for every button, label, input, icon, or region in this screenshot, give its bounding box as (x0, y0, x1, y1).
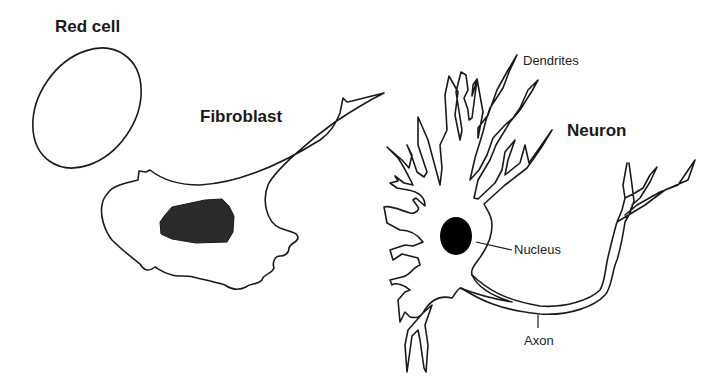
neuron-soma-and-dendrites (384, 55, 552, 322)
nucleus-label: Nucleus (514, 242, 561, 257)
red-cell-title: Red cell (55, 17, 120, 36)
neuron: Neuron Dendrites Nucleus Axon (384, 53, 695, 372)
fibroblast: Fibroblast (101, 93, 384, 289)
dendrites-label: Dendrites (523, 53, 579, 68)
red-cell: Red cell (10, 17, 163, 189)
cell-types-diagram: Red cell Fibroblast Neuron Dendrites Nuc… (0, 0, 725, 386)
neuron-title: Neuron (567, 121, 627, 140)
fibroblast-title: Fibroblast (200, 107, 283, 126)
neuron-nucleus (440, 217, 472, 255)
axon-label: Axon (524, 333, 554, 348)
red-cell-outline (10, 27, 163, 189)
